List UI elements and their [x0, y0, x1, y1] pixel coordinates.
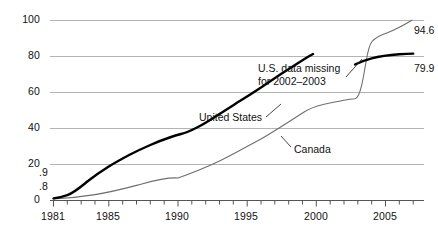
chart-container: 100 80 60 40 20 0 1981 1985 1990 1995 20… [0, 0, 438, 237]
x-axis-tick-1990: 1990 [157, 210, 197, 222]
series-line-canada [54, 20, 413, 199]
series-label-canada: Canada [294, 143, 331, 155]
note-line-1: U.S. data missing [258, 62, 340, 75]
series-end-value-canada: 94.6 [414, 24, 434, 36]
us-data-missing-note: U.S. data missing for 2002–2003 [258, 62, 340, 87]
y-axis-tick-40: 40 [14, 121, 40, 133]
x-axis-tick-2005: 2005 [365, 210, 405, 222]
y-axis-tick-20: 20 [14, 157, 40, 169]
series-label-united-states: United States [199, 111, 262, 123]
note-leader-line [346, 59, 362, 77]
x-axis-tick-2000: 2000 [296, 210, 336, 222]
series-start-label-canada: .8 [39, 180, 48, 192]
y-axis-tick-80: 80 [14, 49, 40, 61]
series-start-label-united-states: .9 [39, 166, 48, 178]
united-states-label-leader [266, 104, 281, 117]
y-axis-tick-0: 0 [14, 193, 40, 205]
x-axis-tick-1985: 1985 [88, 210, 128, 222]
x-axis-tick-1995: 1995 [226, 210, 266, 222]
series-line-united-states-segment-2 [355, 54, 413, 65]
x-axis-ticks [54, 201, 414, 207]
y-axis-tick-60: 60 [14, 85, 40, 97]
note-line-2: for 2002–2003 [258, 75, 340, 88]
canada-label-leader [281, 136, 291, 147]
gridlines [50, 21, 424, 165]
y-axis-tick-100: 100 [14, 13, 40, 25]
x-axis-tick-1981: 1981 [33, 210, 73, 222]
series-end-value-united-states: 79.9 [414, 62, 434, 74]
